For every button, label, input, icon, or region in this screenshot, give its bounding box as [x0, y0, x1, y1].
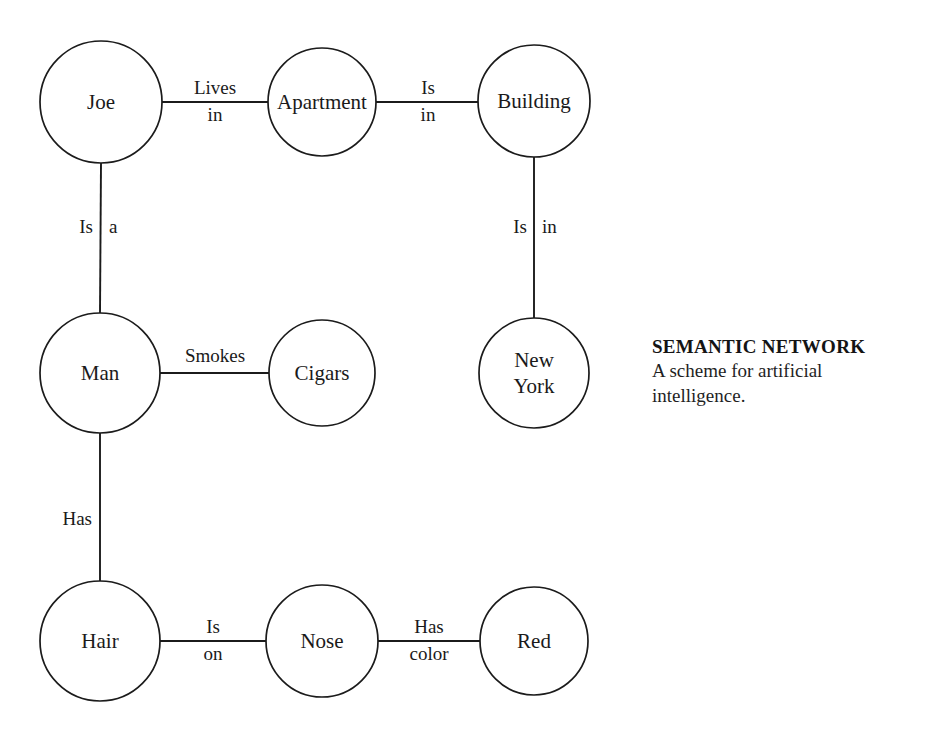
edge-label-joe-is-a-man: Is a — [79, 216, 118, 237]
edge-label-smokes: Smokes — [185, 345, 245, 366]
node-label-newyork-line1: New — [514, 348, 554, 372]
edge-label-is-in-vertical-right: in — [542, 216, 557, 237]
edge-label-lives-in-bottom: in — [208, 104, 223, 125]
edge-label-is-in-vertical-left: Is — [513, 216, 527, 237]
edge-label-is-on-bottom: on — [204, 643, 224, 664]
node-label-hair: Hair — [81, 629, 118, 653]
node-label-building: Building — [497, 89, 571, 113]
edge-label-has-color-top: Has — [414, 616, 444, 637]
figure-caption: SEMANTIC NETWORK A scheme for artificial… — [652, 336, 914, 408]
caption-body: A scheme for artificial intelligence. — [652, 359, 914, 408]
node-label-joe: Joe — [87, 90, 115, 114]
edge-label-is-in-top: Is — [421, 77, 435, 98]
edge-label-is-in-bottom: in — [421, 104, 436, 125]
edge-label-lives-in-top: Lives — [194, 77, 236, 98]
edge-line-joe-man — [100, 163, 101, 313]
node-label-cigars: Cigars — [295, 361, 350, 385]
node-label-newyork-line2: York — [513, 374, 555, 398]
caption-title: SEMANTIC NETWORK — [652, 336, 914, 358]
node-label-nose: Nose — [300, 629, 343, 653]
edge-label-is-on-top: Is — [206, 616, 220, 637]
node-label-red: Red — [517, 629, 551, 653]
node-label-apartment: Apartment — [277, 90, 367, 114]
caption-body-line1: A scheme for artificial — [652, 360, 822, 381]
edge-label-is-a-right: a — [109, 216, 118, 237]
semantic-network-figure: SEMANTIC NETWORK Joe — [0, 0, 936, 733]
edge-label-is-a-left: Is — [79, 216, 93, 237]
node-label-man: Man — [81, 361, 120, 385]
edge-label-has: Has — [62, 508, 92, 529]
caption-body-line2: intelligence. — [652, 385, 745, 406]
edge-label-has-color-bottom: color — [409, 643, 449, 664]
edge-label-building-is-in-newyork: Is in — [513, 216, 557, 237]
